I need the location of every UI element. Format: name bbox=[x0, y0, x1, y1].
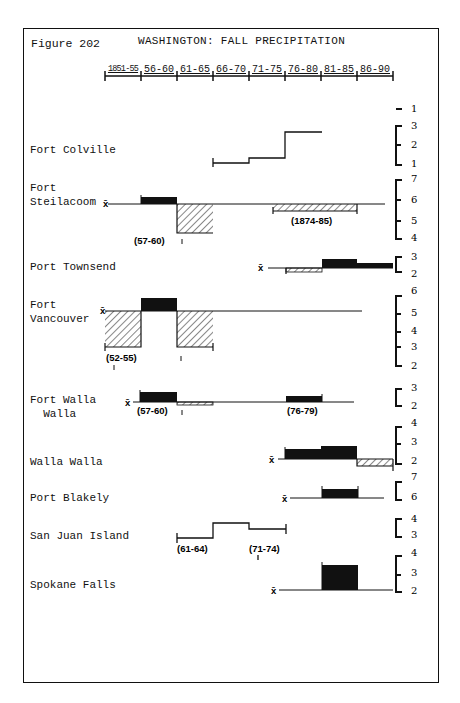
series-port-townsend bbox=[268, 259, 393, 274]
chart-canvas: 1 321 x̄ (57-60) (1874-85) 7654 x̄ bbox=[0, 0, 460, 703]
svg-text:7: 7 bbox=[411, 173, 417, 184]
svg-text:3: 3 bbox=[411, 567, 417, 578]
svg-text:(57-60): (57-60) bbox=[137, 405, 168, 416]
scale-sanjuan bbox=[396, 519, 402, 537]
svg-text:6: 6 bbox=[411, 285, 417, 296]
svg-text:6: 6 bbox=[411, 194, 417, 205]
svg-text:(61-64): (61-64) bbox=[177, 543, 208, 554]
svg-text:3: 3 bbox=[411, 341, 417, 352]
scale-fww bbox=[396, 389, 402, 406]
svg-text:1: 1 bbox=[411, 103, 417, 114]
svg-text:4: 4 bbox=[411, 232, 417, 243]
svg-text:(76-79): (76-79) bbox=[287, 405, 318, 416]
scale-blakely bbox=[396, 482, 402, 500]
svg-text:4: 4 bbox=[411, 513, 417, 524]
svg-text:(57-60): (57-60) bbox=[134, 235, 165, 246]
series-port-blakely bbox=[290, 486, 384, 498]
svg-text:3: 3 bbox=[411, 251, 417, 262]
scale-steilacoom bbox=[396, 180, 402, 239]
series-fort-vancouver bbox=[105, 298, 362, 370]
svg-text:(1874-85): (1874-85) bbox=[291, 215, 332, 226]
svg-text:4: 4 bbox=[411, 547, 417, 558]
svg-text:x̄: x̄ bbox=[103, 198, 109, 209]
svg-text:3: 3 bbox=[411, 382, 417, 393]
svg-text:2: 2 bbox=[411, 268, 417, 279]
series-san-juan-island bbox=[177, 523, 286, 560]
svg-text:2: 2 bbox=[411, 585, 417, 596]
svg-text:x̄: x̄ bbox=[125, 397, 131, 408]
svg-text:x̄: x̄ bbox=[271, 585, 277, 596]
svg-text:(52-55): (52-55) bbox=[106, 352, 137, 363]
scale-spokane bbox=[396, 556, 402, 592]
svg-text:4: 4 bbox=[411, 417, 417, 428]
svg-text:x̄: x̄ bbox=[100, 305, 106, 316]
svg-text:7: 7 bbox=[411, 471, 417, 482]
series-fort-colville bbox=[213, 132, 322, 167]
svg-text:x̄: x̄ bbox=[269, 454, 275, 465]
svg-text:2: 2 bbox=[411, 400, 417, 411]
svg-text:3: 3 bbox=[411, 120, 417, 131]
svg-text:x̄: x̄ bbox=[258, 262, 264, 273]
svg-text:4: 4 bbox=[411, 325, 417, 336]
svg-text:x̄: x̄ bbox=[282, 493, 288, 504]
scale-colville bbox=[396, 126, 402, 165]
svg-text:3: 3 bbox=[411, 529, 417, 540]
time-axis bbox=[105, 71, 393, 81]
scale-vancouver bbox=[396, 296, 402, 366]
svg-text:2: 2 bbox=[411, 139, 417, 150]
svg-text:2: 2 bbox=[411, 455, 417, 466]
svg-text:5: 5 bbox=[411, 215, 417, 226]
svg-text:5: 5 bbox=[411, 307, 417, 318]
series-walla-walla bbox=[278, 446, 393, 471]
svg-text:3: 3 bbox=[411, 436, 417, 447]
scale-ww bbox=[396, 427, 402, 464]
series-spokane-falls bbox=[279, 562, 393, 590]
svg-text:6: 6 bbox=[411, 491, 417, 502]
scale-townsend bbox=[396, 257, 402, 272]
svg-text:(71-74): (71-74) bbox=[249, 543, 280, 554]
svg-text:2: 2 bbox=[411, 360, 417, 371]
svg-text:1: 1 bbox=[411, 158, 417, 169]
